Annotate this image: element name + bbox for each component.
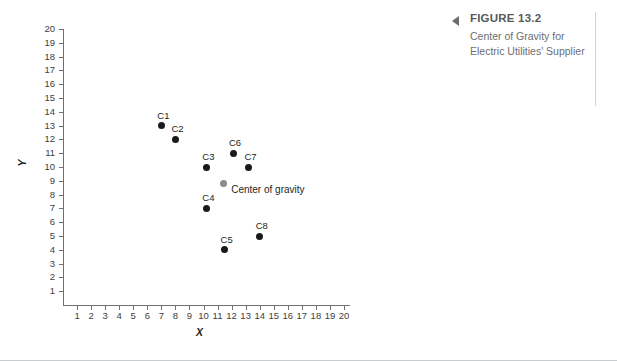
point-label-c2: C2 xyxy=(171,124,183,134)
y-tick-label: 15 xyxy=(33,93,55,103)
data-point-c6 xyxy=(230,150,237,157)
y-tick xyxy=(59,70,63,71)
y-tick-label: 11 xyxy=(33,148,55,158)
x-axis-line xyxy=(63,305,350,306)
y-tick xyxy=(59,126,63,127)
point-label-c7: C7 xyxy=(244,152,256,162)
center-of-gravity-marker xyxy=(220,180,227,187)
y-tick-label: 18 xyxy=(33,52,55,62)
data-point-c2 xyxy=(172,136,179,143)
data-point-c7 xyxy=(245,164,252,171)
y-tick-label: 7 xyxy=(33,203,55,213)
y-tick xyxy=(59,139,63,140)
y-tick-label: 5 xyxy=(33,231,55,241)
y-tick-label: 3 xyxy=(33,259,55,269)
y-tick xyxy=(59,84,63,85)
y-tick xyxy=(59,277,63,278)
y-tick-label: 19 xyxy=(33,38,55,48)
data-point-c3 xyxy=(203,164,210,171)
data-point-c1 xyxy=(158,122,165,129)
y-tick-label: 10 xyxy=(33,162,55,172)
data-point-c4 xyxy=(203,205,210,212)
y-tick-label: 2 xyxy=(33,272,55,282)
y-axis-title: Y xyxy=(16,159,28,166)
y-tick xyxy=(59,112,63,113)
y-tick xyxy=(59,195,63,196)
point-label-c5: C5 xyxy=(221,235,233,245)
y-tick-label: 9 xyxy=(33,176,55,186)
y-tick xyxy=(59,250,63,251)
y-tick xyxy=(59,181,63,182)
y-tick-label: 8 xyxy=(33,190,55,200)
point-label-c3: C3 xyxy=(202,152,214,162)
y-tick-label: 14 xyxy=(33,107,55,117)
y-tick xyxy=(59,43,63,44)
y-tick xyxy=(59,167,63,168)
point-label-c8: C8 xyxy=(256,221,268,231)
y-tick-label: 13 xyxy=(33,121,55,131)
y-tick-label: 16 xyxy=(33,79,55,89)
y-tick xyxy=(59,57,63,58)
point-label-c1: C1 xyxy=(157,111,169,121)
y-tick xyxy=(59,153,63,154)
y-tick xyxy=(59,98,63,99)
x-tick-label: 20 xyxy=(335,311,353,321)
point-label-c6: C6 xyxy=(229,138,241,148)
figure-container: FIGURE 13.2 Center of Gravity for Electr… xyxy=(0,0,617,361)
point-label-c4: C4 xyxy=(202,193,214,203)
y-tick-label: 6 xyxy=(33,217,55,227)
y-tick-label: 4 xyxy=(33,245,55,255)
y-tick-label: 17 xyxy=(33,65,55,75)
y-tick-label: 20 xyxy=(33,24,55,34)
y-tick-label: 1 xyxy=(33,286,55,296)
y-tick xyxy=(59,236,63,237)
x-axis-title: X xyxy=(196,326,203,338)
y-tick-label: 12 xyxy=(33,134,55,144)
y-axis-line xyxy=(63,29,64,306)
y-tick xyxy=(59,29,63,30)
y-tick xyxy=(59,208,63,209)
y-tick xyxy=(59,222,63,223)
y-tick xyxy=(59,291,63,292)
data-point-c5 xyxy=(221,246,228,253)
y-tick xyxy=(59,264,63,265)
data-point-c8 xyxy=(256,233,263,240)
center-of-gravity-label: Center of gravity xyxy=(231,184,304,195)
